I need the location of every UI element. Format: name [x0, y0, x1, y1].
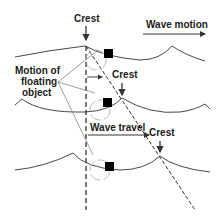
wave-diagram: Crest Wave motion Crest Motion of floati…	[0, 0, 221, 222]
pointer-line-3	[58, 82, 93, 155]
wave-profile-2	[15, 98, 210, 112]
floating-object-2	[103, 98, 112, 107]
crest-mid-label: Crest	[112, 69, 138, 80]
wave-travel-label: Wave travel	[90, 122, 145, 133]
pointer-line-2	[58, 82, 95, 93]
floating-object-1	[104, 49, 113, 58]
orbit-circle-1	[86, 50, 106, 70]
wave-motion-label: Wave motion	[146, 19, 208, 30]
motion-label-line3: object	[22, 87, 52, 98]
crest-top-label: Crest	[74, 13, 100, 24]
floating-object-3	[105, 162, 114, 171]
motion-label-line2: floating	[21, 76, 57, 87]
crest-bottom-label: Crest	[149, 127, 175, 138]
motion-label-line1: Motion of	[15, 65, 61, 76]
